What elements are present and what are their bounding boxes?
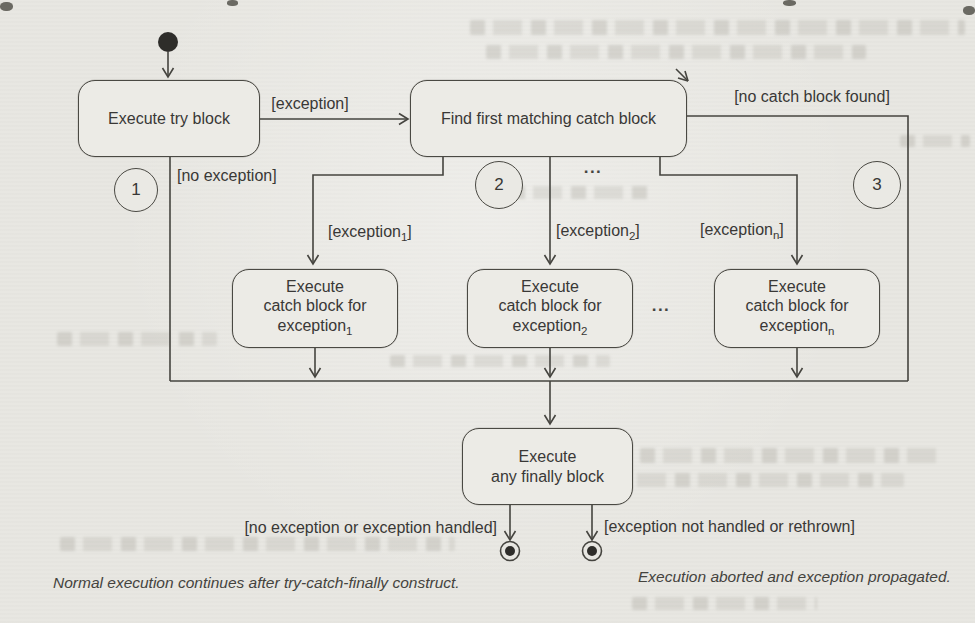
transition-find-to-catchn xyxy=(660,157,803,264)
guard-exception-1: [exception1] xyxy=(328,223,412,243)
state-label: Execute xyxy=(519,447,577,467)
marker-circle-2: 2 xyxy=(475,161,523,209)
transition-start-to-try xyxy=(163,52,174,77)
state-label: Execute xyxy=(286,277,344,297)
transition-catchn-to-merge xyxy=(792,348,803,377)
final-state-normal xyxy=(501,542,520,561)
state-label: catch block for xyxy=(263,296,366,316)
state-label: exceptionn xyxy=(760,316,835,341)
state-execute-try-block: Execute try block xyxy=(78,80,260,157)
state-label: Execute xyxy=(521,277,579,297)
state-find-matching-catch-block: Find first matching catch block xyxy=(410,80,687,157)
ellipsis-branches: ... xyxy=(584,158,603,178)
transition-merge-to-finally xyxy=(545,381,556,424)
state-label: exception1 xyxy=(278,316,353,341)
final-state-abort xyxy=(583,542,602,561)
caption-normal-execution: Normal execution continues after try-cat… xyxy=(53,574,460,592)
guard-exception-n: [exceptionn] xyxy=(700,221,784,241)
state-execute-catch-block-2: Execute catch block for exception2 xyxy=(467,269,633,348)
transition-finally-to-abort-end xyxy=(587,505,598,540)
transition-catch2-to-merge xyxy=(545,348,556,377)
initial-state-node xyxy=(158,32,178,52)
state-execute-finally-block: Execute any finally block xyxy=(462,428,633,505)
ellipsis-catch-blocks: ... xyxy=(652,296,671,316)
state-label: exception2 xyxy=(513,316,588,341)
caption-execution-aborted: Execution aborted and exception propagat… xyxy=(638,568,951,586)
scanned-page: Execute try block Find first matching ca… xyxy=(0,0,975,623)
arrowhead-find-corner xyxy=(676,69,688,81)
transition-try-to-find xyxy=(260,114,408,125)
transition-finally-to-normal-end xyxy=(505,505,516,540)
transition-find-to-catch1 xyxy=(308,157,444,264)
state-execute-catch-block-n: Execute catch block for exceptionn xyxy=(714,269,880,348)
state-label: catch block for xyxy=(745,296,848,316)
guard-no-catch-block-found: [no catch block found] xyxy=(734,88,890,106)
state-label: catch block for xyxy=(498,296,601,316)
state-label: Execute xyxy=(768,277,826,297)
marker-circle-1: 1 xyxy=(114,168,158,212)
guard-exception-2: [exception2] xyxy=(556,222,640,242)
state-label: Execute try block xyxy=(108,109,230,129)
guard-exception: [exception] xyxy=(271,95,348,113)
marker-circle-3: 3 xyxy=(853,161,901,209)
state-label: any finally block xyxy=(491,467,604,487)
state-execute-catch-block-1: Execute catch block for exception1 xyxy=(232,269,398,348)
transition-find-to-catch2 xyxy=(545,157,556,264)
guard-exception-not-handled: [exception not handled or rethrown] xyxy=(604,518,855,536)
state-label: Find first matching catch block xyxy=(441,109,656,129)
guard-no-exception: [no exception] xyxy=(177,167,277,185)
transition-catch1-to-merge xyxy=(310,348,321,377)
guard-exception-handled: [no exception or exception handled] xyxy=(244,519,497,537)
